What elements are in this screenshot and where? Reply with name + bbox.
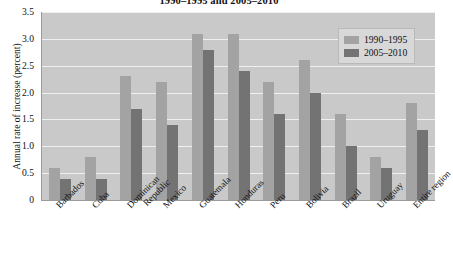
bar: [239, 71, 250, 200]
bar-group: [78, 12, 114, 200]
bar-group: [185, 12, 221, 200]
legend-label: 1990–1995: [364, 34, 407, 45]
chart-legend: 1990–19952005–2010: [338, 28, 415, 64]
y-tick-label: 1.5: [10, 114, 34, 124]
y-tick-label: 3.0: [10, 34, 34, 44]
bar: [370, 157, 381, 200]
legend-item: 1990–1995: [344, 33, 407, 46]
y-tick-label: 1.0: [10, 141, 34, 151]
bar: [49, 168, 60, 200]
legend-item: 2005–2010: [344, 46, 407, 59]
bar: [335, 114, 346, 200]
bar-group: [42, 12, 78, 200]
bar: [203, 50, 214, 200]
legend-swatch: [344, 49, 359, 57]
bar-group: [221, 12, 257, 200]
bar-group: [256, 12, 292, 200]
y-tick-label: 3.5: [10, 7, 34, 17]
bar: [120, 76, 131, 200]
bar: [310, 93, 321, 200]
bar: [192, 34, 203, 201]
bar: [274, 114, 285, 200]
y-axis-tick-labels: 00.51.01.52.02.53.03.5: [8, 0, 34, 267]
bar: [406, 103, 417, 200]
y-tick-label: 0: [10, 195, 34, 205]
x-axis-tick-labels: BarbadosCubaDominicanRepublicMexicoGuate…: [42, 200, 435, 267]
chart-title: 1990–1995 and 2005–2010: [0, 0, 438, 7]
bar: [85, 157, 96, 200]
y-tick-label: 0.5: [10, 168, 34, 178]
bar: [263, 82, 274, 200]
y-tick-label: 2.5: [10, 61, 34, 71]
bar-group: [113, 12, 149, 200]
legend-label: 2005–2010: [364, 47, 407, 58]
bar: [228, 34, 239, 201]
y-tick-label: 2.0: [10, 88, 34, 98]
legend-swatch: [344, 36, 359, 44]
bar: [299, 60, 310, 200]
bar-group: [292, 12, 328, 200]
